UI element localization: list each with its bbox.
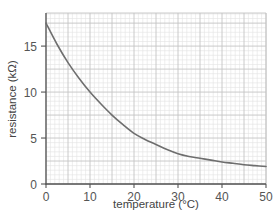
axis-ticks xyxy=(41,46,266,188)
x-tick-label: 40 xyxy=(215,190,229,204)
y-tick-label: 0 xyxy=(30,178,37,192)
y-tick-label: 15 xyxy=(24,40,38,54)
resistance-temperature-chart: 01020304050051015 temperature (°C) resis… xyxy=(0,0,279,218)
grid-major xyxy=(46,13,266,184)
x-tick-label: 10 xyxy=(83,190,97,204)
x-tick-label: 0 xyxy=(43,190,50,204)
y-tick-label: 5 xyxy=(30,132,37,146)
y-axis-label: resistance (kΩ) xyxy=(6,60,18,138)
x-tick-label: 50 xyxy=(259,190,273,204)
x-axis-label: temperature (°C) xyxy=(113,198,199,210)
y-tick-label: 10 xyxy=(24,86,38,100)
